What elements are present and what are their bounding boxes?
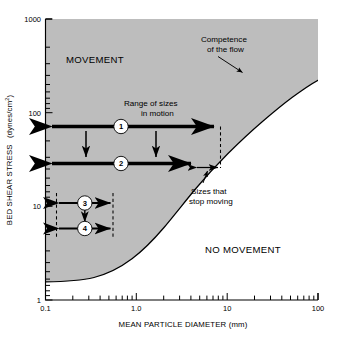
x-tick-label-0-1: 0.1 bbox=[40, 304, 50, 313]
y-axis-title-units-open: (dynes/cm bbox=[5, 101, 14, 138]
marker-circle-2-label: 2 bbox=[119, 159, 123, 168]
competence-annotation-line2: of the flow bbox=[207, 45, 244, 54]
x-tick-label-100: 100 bbox=[312, 304, 325, 313]
marker-circle-2: 2 bbox=[114, 156, 128, 170]
x-tick-label-10: 10 bbox=[223, 304, 231, 313]
y-axis-title-main: BED SHEAR STRESS bbox=[5, 144, 14, 225]
y-tick-label-100: 100 bbox=[28, 109, 41, 118]
y-tick-label-10: 10 bbox=[33, 202, 41, 211]
stop-moving-annotation-line1: Sizes that bbox=[191, 187, 227, 196]
chart-canvas: 1000 100 10 1 bbox=[0, 0, 341, 342]
x-tick-label-1-0: 1.0 bbox=[131, 304, 141, 313]
y-axis-title-group: BED SHEAR STRESS (dynes/cm2) bbox=[4, 95, 14, 226]
no-movement-region-label: NO MOVEMENT bbox=[205, 244, 281, 255]
competence-diagram-figure: 1000 100 10 1 bbox=[0, 0, 341, 342]
marker-circle-1: 1 bbox=[114, 119, 128, 133]
x-axis-title: MEAN PARTICLE DIAMETER (mm) bbox=[119, 320, 248, 329]
marker-circle-4: 4 bbox=[78, 221, 92, 235]
marker-circle-3: 3 bbox=[78, 196, 92, 210]
range-annotation-line1: Range of sizes bbox=[124, 99, 178, 108]
movement-region-label: MOVEMENT bbox=[66, 54, 124, 65]
marker-circle-3-label: 3 bbox=[83, 199, 87, 208]
competence-annotation-line1: Competence bbox=[201, 35, 247, 44]
y-axis-title-units-close: ) bbox=[5, 95, 14, 98]
range-annotation-line2: in motion bbox=[141, 109, 174, 118]
svg-text:BED SHEAR STRESS (dyne: BED SHEAR STRESS (dynes/cm2) bbox=[4, 95, 14, 226]
stop-moving-annotation-line2: stop moving bbox=[189, 197, 233, 206]
y-tick-label-1000: 1000 bbox=[24, 15, 41, 24]
